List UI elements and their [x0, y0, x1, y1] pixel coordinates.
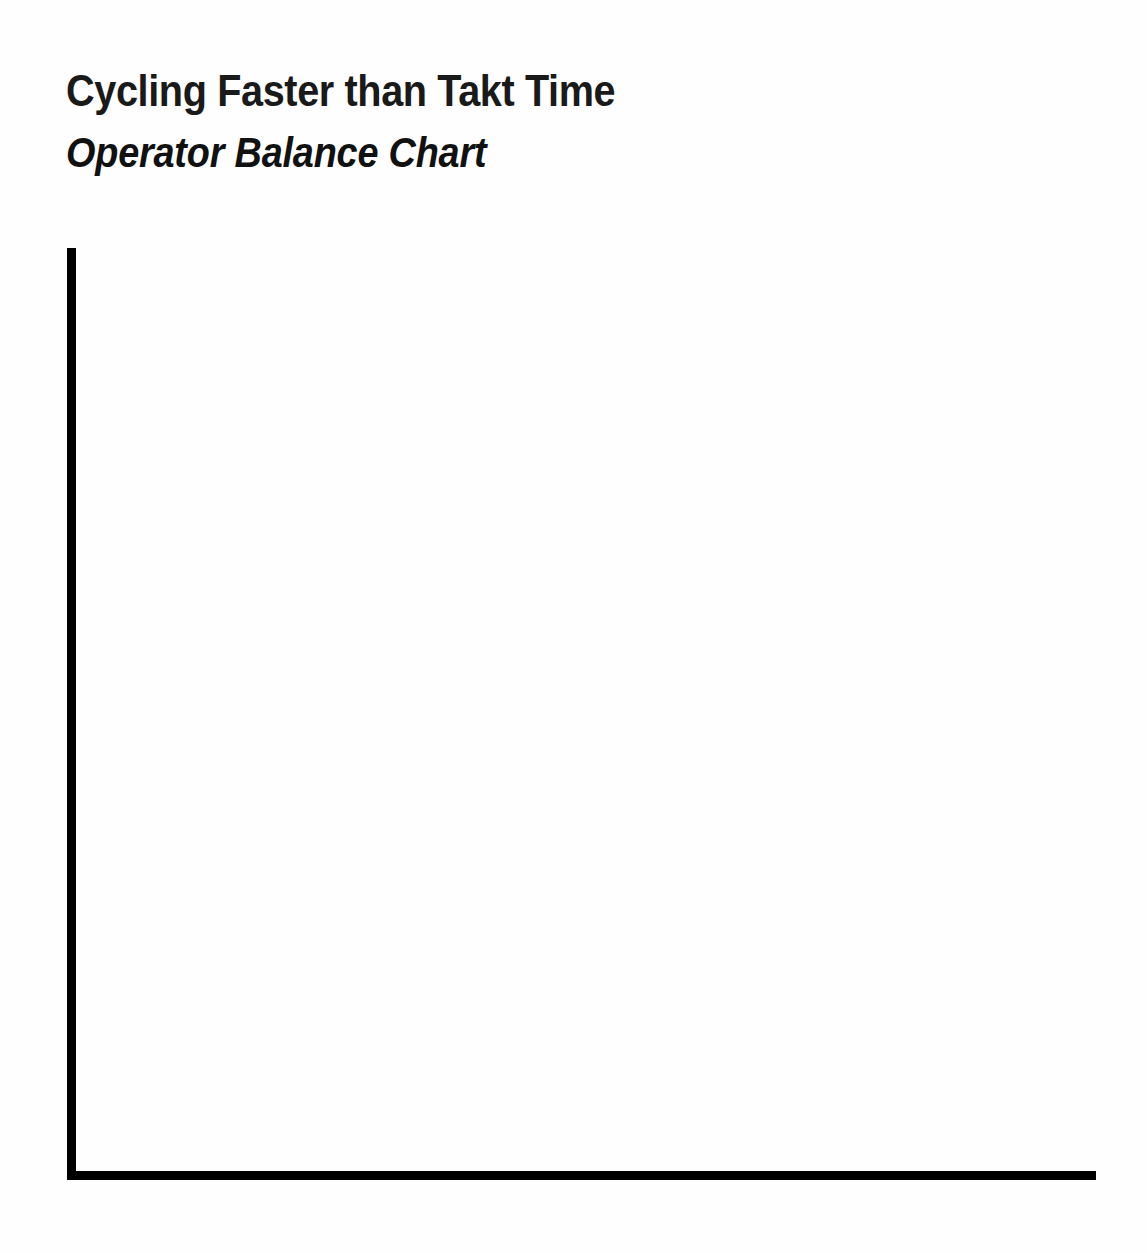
y-axis-line — [67, 248, 76, 1180]
plot-area — [76, 248, 1096, 1171]
chart-page: Cycling Faster than Takt Time Operator B… — [0, 0, 1147, 1253]
page-title: Cycling Faster than Takt Time — [66, 68, 966, 114]
x-axis-line — [67, 1171, 1096, 1180]
chart-axes-container — [0, 0, 1147, 1253]
chart-header: Cycling Faster than Takt Time Operator B… — [66, 68, 1066, 175]
chart-subtitle: Operator Balance Chart — [66, 114, 966, 175]
